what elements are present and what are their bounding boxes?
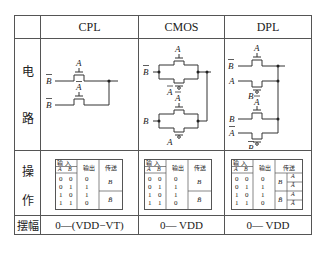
- row-label-op-2: 作: [15, 189, 40, 209]
- pass-sub-4: Ā: [291, 200, 295, 206]
- hdr-a: A: [234, 166, 238, 172]
- hdr-b: B: [68, 166, 72, 172]
- svg-text:B: B: [46, 100, 52, 110]
- svg-text:A: A: [174, 93, 181, 103]
- pass-1: B: [108, 178, 112, 186]
- dpl-circuit-diagram: B A A B A B A B: [225, 39, 311, 149]
- header-cmos: CMOS: [139, 16, 224, 38]
- border-bottom: [14, 234, 312, 235]
- svg-text:A: A: [253, 97, 260, 107]
- divider-row2: [14, 150, 312, 151]
- col-a: 0011: [235, 175, 239, 207]
- cmos-truth-table: 输 入 A B 输出 传送 0011 0101 0110 B B̄: [144, 159, 212, 210]
- row-label-circuit-2: 路: [15, 107, 40, 127]
- svg-text:A: A: [253, 43, 260, 53]
- svg-text:A: A: [228, 76, 235, 86]
- pass-2: B̄: [197, 196, 201, 204]
- col-b: 0101: [158, 175, 162, 207]
- col-out: 0110: [85, 175, 89, 207]
- row-label-swing: 摆幅: [15, 216, 40, 234]
- pass-1: B: [197, 178, 201, 186]
- swing-cmos: 0— VDD: [139, 216, 224, 234]
- col-a: 0011: [59, 175, 63, 207]
- svg-text:B: B: [143, 67, 149, 77]
- col-b: 0101: [69, 175, 73, 207]
- hdr-output: 输出: [78, 163, 99, 172]
- cpl-circuit-diagram: B A B A: [41, 39, 138, 149]
- pass-sub-2: Ā: [291, 182, 295, 188]
- header-dpl: DPL: [225, 16, 311, 38]
- col-a: 0011: [148, 175, 152, 207]
- hdr-b: B: [244, 166, 248, 172]
- col-out: 0110: [261, 175, 265, 207]
- svg-text:A: A: [75, 58, 82, 68]
- svg-text:A: A: [166, 137, 173, 147]
- svg-text:B: B: [228, 61, 234, 71]
- col-out: 0110: [174, 175, 178, 207]
- svg-text:A: A: [166, 87, 173, 97]
- row-label-op-1: 操: [15, 160, 40, 180]
- dpl-truth-table: 输 入 A B 输出 传送 0011 0101 0110 B B̄ A Ā A …: [231, 159, 303, 210]
- svg-text:B: B: [229, 114, 235, 124]
- cpl-truth-table: 输 入 A B 输出 传送 0011 0101 0110 B B̄: [55, 159, 123, 210]
- svg-text:A: A: [228, 128, 235, 138]
- pass-sub-3: A: [291, 191, 295, 197]
- hdr-output: 输出: [167, 163, 188, 172]
- pass-1: B: [278, 178, 282, 186]
- svg-text:A: A: [174, 44, 181, 54]
- hdr-pass: 传送: [189, 163, 211, 172]
- svg-text:A: A: [75, 82, 82, 92]
- row-label-circuit-1: 电: [15, 60, 40, 80]
- cmos-circuit-diagram: B A A B A A: [139, 39, 224, 149]
- comparison-table: CPL CMOS DPL 电 路 操 作 摆幅 B A B A: [14, 15, 312, 235]
- pass-2: B̄: [278, 196, 282, 204]
- hdr-pass: 传送: [100, 163, 122, 172]
- pass-2: B̄: [108, 196, 112, 204]
- hdr-pass: 传送: [276, 163, 302, 172]
- header-cpl: CPL: [41, 16, 138, 38]
- hdr-output: 输出: [254, 163, 275, 172]
- svg-text:B: B: [143, 116, 149, 126]
- cpl-input-1: B: [46, 76, 52, 86]
- hdr-a: A: [58, 166, 62, 172]
- pass-sub-1: A: [291, 173, 295, 179]
- svg-text:B: B: [248, 143, 254, 149]
- hdr-b: B: [157, 166, 161, 172]
- swing-cpl: 0—(VDD−VT): [41, 216, 138, 234]
- hdr-a: A: [147, 166, 151, 172]
- border-right: [311, 15, 312, 235]
- swing-dpl: 0— VDD: [225, 216, 311, 234]
- col-b: 0101: [245, 175, 249, 207]
